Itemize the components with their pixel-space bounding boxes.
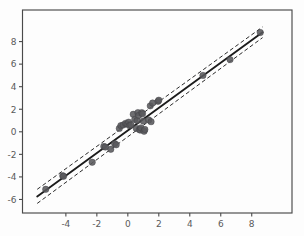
x-tick-label: 6 (218, 219, 224, 229)
y-tick-label: -6 (8, 195, 17, 205)
data-point (43, 186, 49, 192)
data-point (148, 118, 154, 124)
y-tick-label: 8 (11, 37, 17, 47)
y-tick-label: 6 (11, 59, 17, 69)
x-tick-label: 8 (249, 219, 255, 229)
data-point (156, 97, 162, 103)
y-tick-label: -4 (8, 172, 17, 182)
data-point (200, 72, 206, 78)
figure-canvas: -4-202468 -6-4-202468 (0, 0, 304, 236)
data-point (113, 142, 119, 148)
x-tick-label: 2 (156, 219, 162, 229)
data-point (227, 56, 233, 62)
y-tick-label: 0 (11, 127, 17, 137)
data-point (108, 146, 114, 152)
data-point (142, 126, 148, 132)
data-point (60, 173, 66, 179)
data-point (139, 111, 145, 117)
x-tick-label: 0 (125, 219, 131, 229)
data-point (89, 159, 95, 165)
x-tick-label: -4 (61, 219, 70, 229)
x-tick-label: -2 (92, 219, 101, 229)
data-point (257, 29, 263, 35)
y-tick-label: 4 (11, 82, 17, 92)
scatter-plot: -4-202468 -6-4-202468 (0, 0, 304, 236)
y-tick-label: 2 (11, 105, 17, 115)
y-tick-label: -2 (8, 150, 17, 160)
x-tick-label: 4 (187, 219, 193, 229)
